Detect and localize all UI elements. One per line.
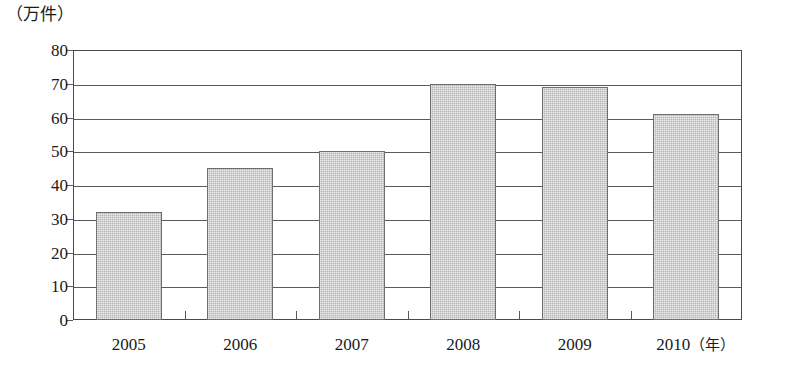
- bar-chart: （万件） 01020304050607080 20052006200720082…: [0, 0, 788, 375]
- x-axis-tick-mark: [631, 311, 632, 319]
- x-axis-tick-label: 2010（年）: [656, 336, 735, 353]
- x-axis-tick-label-text: 2007: [335, 335, 369, 354]
- gridline: [74, 119, 741, 120]
- x-axis-tick-label: 2009: [558, 336, 592, 353]
- y-axis-tick-label: 60: [4, 109, 68, 126]
- x-axis-tick-mark: [296, 311, 297, 319]
- x-axis-tick-label-text: 2010: [656, 335, 690, 354]
- gridline: [74, 287, 741, 288]
- x-axis-unit-label: （年）: [690, 337, 735, 353]
- x-axis-tick-label-text: 2008: [446, 335, 480, 354]
- y-axis-tick-label: 10: [4, 278, 68, 295]
- x-axis-labels: 200520062007200820092010（年）: [73, 336, 788, 366]
- x-axis-tick-label-text: 2006: [223, 335, 257, 354]
- gridline: [74, 186, 741, 187]
- x-axis-tick-mark: [185, 311, 186, 319]
- x-axis-tick-label: 2008: [446, 336, 480, 353]
- gridline: [74, 152, 741, 153]
- y-axis-tick-label: 70: [4, 75, 68, 92]
- y-axis-tick-label: 50: [4, 143, 68, 160]
- gridline: [74, 254, 741, 255]
- y-axis-tick-label: 30: [4, 210, 68, 227]
- y-axis-labels: 01020304050607080: [0, 50, 68, 320]
- x-axis-tick-marks: [73, 311, 742, 321]
- x-axis-tick-label-text: 2009: [558, 335, 592, 354]
- y-axis-tick-label: 20: [4, 244, 68, 261]
- x-axis-tick-label: 2007: [335, 336, 369, 353]
- x-axis-tick-label-text: 2005: [112, 335, 146, 354]
- y-axis-tick-label: 80: [4, 42, 68, 59]
- x-axis-tick-mark: [519, 311, 520, 319]
- y-axis-tick-label: 0: [4, 312, 68, 329]
- y-axis-tick-label: 40: [4, 177, 68, 194]
- y-axis-unit-label: （万件）: [6, 6, 74, 23]
- plot-area: [73, 50, 742, 320]
- gridline: [74, 85, 741, 86]
- gridline: [74, 220, 741, 221]
- x-axis-tick-mark: [408, 311, 409, 319]
- x-axis-tick-label: 2005: [112, 336, 146, 353]
- x-axis-tick-label: 2006: [223, 336, 257, 353]
